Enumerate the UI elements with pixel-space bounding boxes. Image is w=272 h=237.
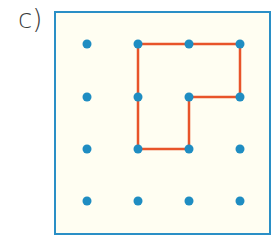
grid-dot bbox=[236, 197, 245, 206]
grid-dot bbox=[236, 40, 245, 49]
grid-dot bbox=[83, 197, 92, 206]
grid-dot bbox=[185, 40, 194, 49]
grid-dot bbox=[236, 93, 245, 102]
grid-dot bbox=[185, 197, 194, 206]
grid-dot bbox=[83, 145, 92, 154]
grid-dot bbox=[83, 93, 92, 102]
grid-dot bbox=[134, 93, 143, 102]
grid-dot bbox=[236, 145, 245, 154]
grid-dot bbox=[83, 40, 92, 49]
grid-dot bbox=[134, 40, 143, 49]
grid-dot bbox=[134, 145, 143, 154]
grid-dot bbox=[185, 145, 194, 154]
grid-dots bbox=[83, 40, 245, 206]
dot-grid-figure bbox=[0, 0, 272, 237]
grid-dot bbox=[185, 93, 194, 102]
grid-dot bbox=[134, 197, 143, 206]
